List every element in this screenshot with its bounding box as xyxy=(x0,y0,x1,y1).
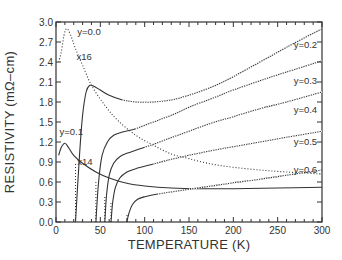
x-tick-label: 50 xyxy=(95,225,107,236)
y-tick-label: 1.2 xyxy=(39,137,53,148)
series-line-y-0-2 xyxy=(76,29,323,222)
y-tick-label: 2.4 xyxy=(39,57,53,68)
series-line-y-0-3 xyxy=(96,61,322,222)
series-line-y-0-0-x16- xyxy=(59,29,322,174)
curve-label: x14 xyxy=(77,156,92,167)
x-tick-label: 200 xyxy=(225,225,242,236)
curve-label: y=0.3 xyxy=(294,75,318,86)
x-tick-label: 250 xyxy=(269,225,286,236)
series-line-y-0-4 xyxy=(105,92,322,222)
curve-label: y=0.4 xyxy=(294,104,318,115)
y-tick-label: 0.3 xyxy=(39,197,53,208)
series-dotted-overlay xyxy=(123,29,323,103)
series-layer xyxy=(59,29,322,222)
x-axis-title: TEMPERATURE (K) xyxy=(128,237,251,252)
y-tick-label: 0.9 xyxy=(39,157,53,168)
y-tick-label: 0.6 xyxy=(39,177,53,188)
y-tick-label: 0.0 xyxy=(39,217,53,228)
annotations: y=0.0x16y=0.1x14y=0.2y=0.3y=0.4y=0.5y=0.… xyxy=(60,26,318,175)
y-tick-label: 1.8 xyxy=(39,97,53,108)
curve-label: x16 xyxy=(76,51,91,62)
y-tick-label: 3.0 xyxy=(39,17,53,28)
curve-label: y=0.0 xyxy=(77,26,101,37)
x-tick-label: 100 xyxy=(136,225,153,236)
x-tick-label: 0 xyxy=(53,225,59,236)
curve-label: y=0.1 xyxy=(60,126,84,137)
resistivity-chart: 0501001502002503000.00.30.60.91.21.51.82… xyxy=(0,0,342,260)
curve-label: y=0.2 xyxy=(294,39,318,50)
curve-label: y=0.5 xyxy=(294,136,318,147)
curve-label: y=0.6 xyxy=(294,164,318,175)
series-line-y-0-6 xyxy=(127,170,322,222)
series-line-y-0-5 xyxy=(111,131,322,222)
x-tick-label: 150 xyxy=(181,225,198,236)
y-axis-title: RESISTIVITY (mΩ–cm) xyxy=(2,51,17,193)
x-tick-label: 300 xyxy=(314,225,331,236)
y-tick-label: 1.5 xyxy=(39,117,53,128)
y-tick-label: 2.1 xyxy=(39,77,53,88)
y-tick-label: 2.7 xyxy=(39,37,53,48)
